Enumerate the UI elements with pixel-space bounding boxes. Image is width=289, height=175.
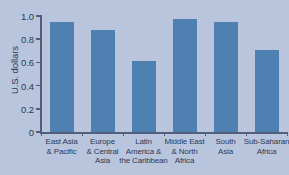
y-axis-tick-label: 0.2: [21, 103, 34, 114]
bar[interactable]: [214, 22, 238, 132]
y-axis-tick-label: 1.0: [21, 11, 34, 22]
y-axis-tick-label: 0.4: [21, 80, 34, 91]
x-axis-category-label: Sub-SaharanAfrica: [240, 137, 289, 156]
bar-slot: [123, 16, 164, 132]
x-axis-tick: [287, 132, 288, 136]
bar-slot: [205, 16, 246, 132]
bar[interactable]: [255, 50, 279, 132]
bar-slot: [41, 16, 82, 132]
category-label-line: Africa: [240, 147, 289, 157]
bar[interactable]: [50, 22, 74, 132]
category-label-line: Africa: [158, 156, 211, 166]
x-axis-tick: [246, 132, 247, 136]
y-axis-tick: [36, 15, 41, 17]
y-axis-tick-label: 0.8: [21, 34, 34, 45]
x-axis-tick: [41, 132, 42, 136]
x-axis-tick: [205, 132, 206, 136]
y-axis-tick: [36, 62, 41, 64]
bar[interactable]: [91, 30, 115, 132]
y-axis-tick-label: 0.6: [21, 57, 34, 68]
bar-slot: [164, 16, 205, 132]
bar[interactable]: [173, 19, 197, 132]
y-axis-tick-label: 0: [29, 127, 34, 138]
bar-series: [41, 16, 287, 132]
y-axis-tick: [36, 108, 41, 110]
y-axis-tick: [36, 38, 41, 40]
bar-slot: [246, 16, 287, 132]
x-axis-tick: [164, 132, 165, 136]
x-axis-tick: [123, 132, 124, 136]
bar-slot: [82, 16, 123, 132]
category-label-line: Sub-Saharan: [240, 137, 289, 147]
chart-title: [58, 0, 248, 3]
x-axis-tick: [82, 132, 83, 136]
bar-chart-figure: U.S. dollars 1.00.80.60.40.20 East Asia&…: [0, 0, 289, 175]
y-axis-tick: [36, 85, 41, 87]
bar[interactable]: [132, 61, 156, 132]
x-axis-category-labels: East Asia& PacificEurope& CentralAsiaLat…: [41, 137, 287, 175]
y-axis-tick: [36, 131, 41, 133]
